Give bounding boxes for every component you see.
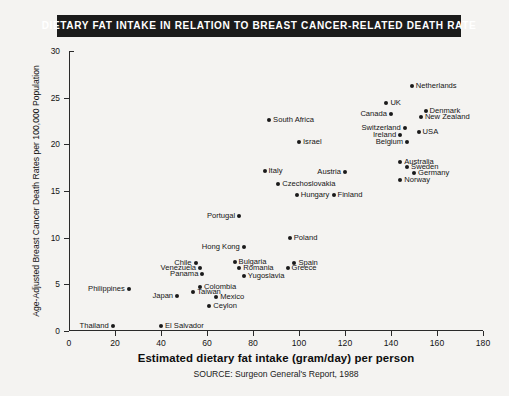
chart-page: DIETARY FAT INTAKE IN RELATION TO BREAST… [0,0,509,396]
data-point [242,274,246,278]
data-point-label: Canada [360,111,387,119]
data-point [237,214,241,218]
data-point-label: Japan [152,293,173,301]
data-point [403,126,407,130]
x-tick-label: 120 [338,339,352,348]
x-tick-label: 160 [430,339,444,348]
data-point-label: Thailand [80,323,109,331]
data-point-label: Norway [404,176,430,184]
y-axis-title: Age-Adjusted Breast Cancer Death Rates p… [31,51,41,331]
data-point [343,170,347,174]
page-title: DIETARY FAT INTAKE IN RELATION TO BREAST… [42,21,477,31]
data-point-label: USA [423,128,439,136]
y-tick-label: 10 [51,234,60,242]
x-tick [483,331,484,336]
y-tick-label: 30 [51,47,60,55]
x-tick-label: 0 [67,339,72,348]
x-axis-title: Estimated dietary fat intake (gram/day) … [69,352,483,364]
data-point-label: Finland [338,191,363,199]
data-point-label: Taiwan [197,288,221,296]
y-tick-label: 20 [51,140,60,148]
data-point-label: Greece [292,265,317,273]
x-tick [115,331,116,336]
data-point [295,193,299,197]
data-point-label: UK [390,99,401,107]
y-tick-label: 15 [51,187,60,195]
y-tick [64,284,69,285]
data-point [405,140,409,144]
data-point-label: Philippines [88,285,125,293]
data-point [237,266,241,270]
data-point [267,118,271,122]
x-tick [207,331,208,336]
x-tick-label: 140 [384,339,398,348]
data-point [332,193,336,197]
data-point [398,178,402,182]
data-point-label: Austria [317,169,341,177]
data-point [276,182,280,186]
data-point [286,266,290,270]
data-point [410,84,414,88]
y-tick [69,51,74,52]
x-axis-line [69,330,483,331]
data-point-label: Ceylon [213,302,237,310]
data-point [417,130,421,134]
x-tick-label: 40 [156,339,166,348]
data-point [398,160,402,164]
y-tick-label: 0 [55,327,60,335]
data-point [214,295,218,299]
data-point [198,266,202,270]
data-point [263,169,267,173]
data-point [419,115,423,119]
data-point-label: Israel [303,139,322,147]
data-point [297,140,301,144]
data-point-label: Italy [269,168,283,176]
x-tick-label: 80 [248,339,258,348]
data-point-label: Hungary [301,191,330,199]
data-point [111,324,115,328]
y-tick [64,98,69,99]
x-tick-label: 100 [292,339,306,348]
data-point [191,290,195,294]
data-point [389,112,393,116]
y-tick [64,238,69,239]
data-point [405,165,409,169]
data-point [127,287,131,291]
y-tick-label: 5 [55,280,60,288]
data-point [200,272,204,276]
x-tick [345,331,346,336]
x-tick [299,331,300,336]
data-point-label: Netherlands [416,82,457,90]
y-tick [64,331,69,332]
x-tick-label: 180 [476,339,490,348]
data-point [207,304,211,308]
data-point [288,236,292,240]
y-tick [64,144,69,145]
plot-area: Age-Adjusted Breast Cancer Death Rates p… [69,51,483,331]
data-point-label: Panama [170,270,198,278]
data-point [233,260,237,264]
source-note: SOURCE: Surgeon General's Report, 1988 [69,369,483,379]
data-point [384,101,388,105]
chart-title-banner: DIETARY FAT INTAKE IN RELATION TO BREAST… [57,15,461,37]
data-point-label: Poland [294,234,318,242]
x-tick [161,331,162,336]
data-point-label: Hong Kong [202,243,240,251]
data-point-label: Belgium [376,138,403,146]
data-point-label: Yugoslavia [248,272,285,280]
y-tick [64,191,69,192]
data-point-label: Portugal [207,212,235,220]
x-tick-label: 20 [110,339,120,348]
x-tick [253,331,254,336]
data-point [242,245,246,249]
data-point-label: New Zealand [425,113,470,121]
x-tick [437,331,438,336]
data-point [159,324,163,328]
data-point-label: El Salvador [165,323,204,331]
x-tick-label: 60 [202,339,212,348]
y-tick-label: 25 [51,94,60,102]
y-axis-line [69,51,70,331]
data-point-label: Czechoslovakia [282,180,335,188]
x-tick [391,331,392,336]
data-point [175,294,179,298]
